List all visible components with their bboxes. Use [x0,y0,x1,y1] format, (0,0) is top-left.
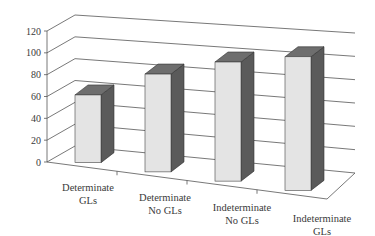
y-tick-label: 60 [31,91,41,102]
side-wall-gridline [47,15,75,31]
category-label: IndeterminateGLs [293,213,352,236]
bar [145,64,184,172]
bar [285,47,324,191]
side-wall-gridline [47,59,75,75]
side-wall-gridline [47,102,75,118]
y-tick-label: 120 [26,26,41,37]
y-tick-label: 40 [31,113,41,124]
bar-front-face [145,74,171,172]
bar-side-face [101,85,114,163]
side-wall-gridline [47,81,75,97]
category-label: IndeterminateNo GLs [213,202,272,226]
bar-front-face [285,57,311,191]
floor-right-edge [327,173,355,199]
bar [215,52,254,181]
side-wall-gridline [47,37,75,53]
bar [75,85,114,163]
back-wall-gridline [75,15,355,33]
bar-side-face [171,64,184,172]
category-label: DeterminateNo GLs [139,192,191,216]
bar-chart: 020406080100120 DeterminateGLsDeterminat… [0,0,375,236]
y-tick-label: 20 [31,135,41,146]
bar-side-face [241,52,254,181]
bar-front-face [215,62,241,181]
y-tick-label: 80 [31,69,41,80]
bar-front-face [75,95,101,163]
side-wall-gridline [47,124,75,140]
y-tick-label: 0 [36,157,41,168]
bar-side-face [311,47,324,191]
side-wall-gridline [47,146,75,162]
category-label: DeterminateGLs [62,182,114,206]
y-tick-label: 100 [26,47,41,58]
